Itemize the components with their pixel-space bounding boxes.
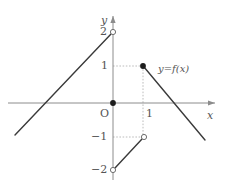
guide-lines	[113, 66, 144, 137]
open-point-0-2	[110, 29, 115, 34]
y-tick-label-2: 2	[100, 26, 107, 37]
open-point-0-minus2	[110, 167, 115, 172]
open-point-1-minus1	[141, 134, 146, 139]
y-axis-arrowhead	[110, 16, 115, 23]
axes	[8, 16, 215, 180]
origin-label: O	[100, 108, 109, 119]
curve-segment-lower	[115, 139, 142, 168]
curve-segment-left	[15, 34, 111, 135]
y-tick-label-minus1: −1	[91, 131, 107, 142]
x-axis-arrowhead	[208, 100, 215, 105]
function-graph-figure: y x O 2 1 −1 −2 1 y=f(x)	[0, 0, 228, 193]
plot-canvas	[0, 0, 228, 193]
x-tick-label-1: 1	[146, 108, 153, 119]
y-tick-label-1: 1	[101, 60, 108, 71]
filled-point-1-1	[140, 63, 146, 69]
function-curve	[15, 34, 205, 168]
endpoint-markers	[110, 29, 146, 172]
curve-label: y=f(x)	[158, 64, 189, 74]
y-tick-label-minus2: −2	[91, 164, 107, 175]
x-axis-label: x	[207, 110, 213, 121]
filled-point-origin	[110, 100, 116, 106]
